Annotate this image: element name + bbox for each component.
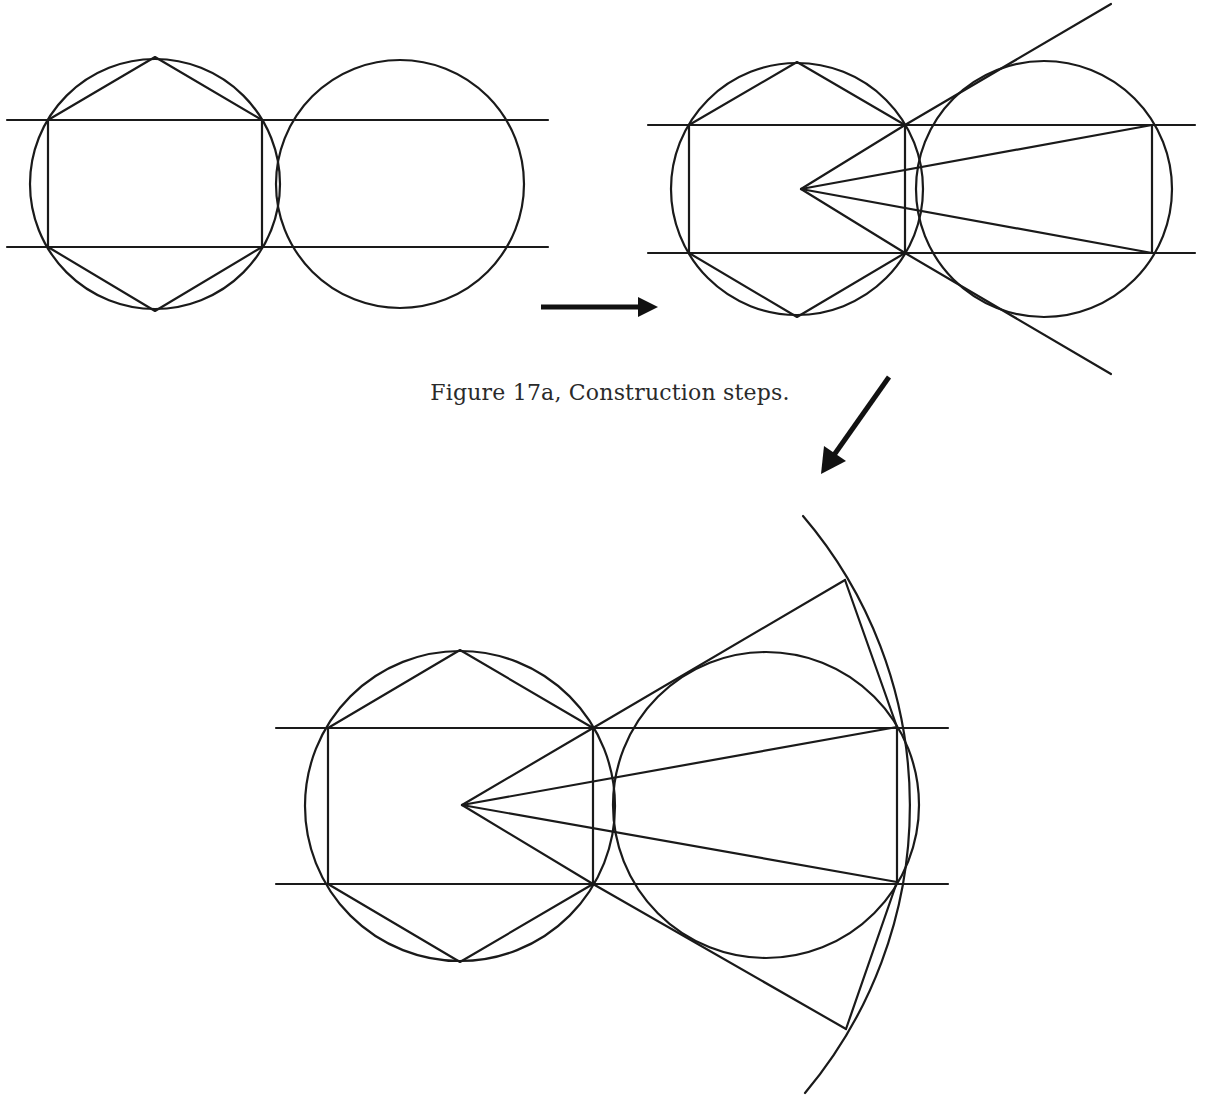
arrow-right-icon bbox=[541, 297, 658, 317]
circle-left bbox=[671, 63, 923, 315]
lower-tangent-line bbox=[593, 884, 846, 1029]
circle-left bbox=[305, 651, 615, 961]
inscribed-hexagon bbox=[328, 650, 593, 962]
circle-left bbox=[30, 59, 280, 309]
rays-from-center bbox=[801, 125, 1152, 253]
figure-step-1 bbox=[7, 57, 548, 311]
figure-step-2 bbox=[648, 4, 1195, 374]
construction-diagram bbox=[0, 0, 1209, 1100]
figure-step-3 bbox=[276, 516, 948, 1093]
circle-right bbox=[916, 61, 1172, 317]
circle-right bbox=[276, 60, 524, 308]
inscribed-hexagon bbox=[689, 62, 905, 317]
inscribed-hexagon bbox=[48, 57, 262, 311]
figure-caption: Figure 17a, Construction steps. bbox=[0, 380, 1209, 405]
upper-tangent-line bbox=[593, 580, 845, 728]
upper-tangent-line bbox=[905, 4, 1111, 125]
rays-from-center bbox=[462, 727, 897, 884]
lower-chord bbox=[846, 882, 897, 1029]
lower-tangent-line bbox=[905, 253, 1111, 374]
upper-chord bbox=[845, 580, 897, 727]
large-arc bbox=[803, 516, 910, 1093]
circle-right bbox=[613, 652, 919, 958]
